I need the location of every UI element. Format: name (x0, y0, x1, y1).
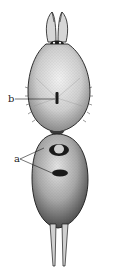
cephalothorax (25, 44, 93, 132)
abdominal-marking-lower (52, 170, 68, 177)
abdominal-marking-upper (49, 144, 69, 156)
spinnerets (50, 224, 68, 266)
chelicerae (46, 12, 67, 42)
label-a: a (14, 154, 20, 164)
spider-illustration (0, 0, 113, 273)
abdomen (32, 134, 88, 228)
fovea (56, 92, 59, 104)
label-b: b (8, 94, 14, 104)
